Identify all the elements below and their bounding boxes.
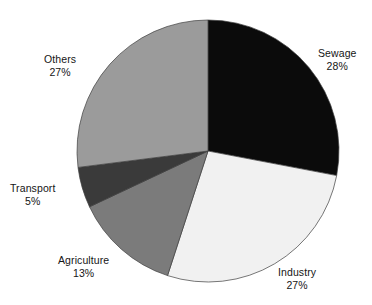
pie-slice-others <box>77 20 208 167</box>
pie-chart: Sewage 28% Industry 27% Agriculture 13% … <box>0 0 372 305</box>
pie-label-sewage: Sewage 28% <box>318 47 357 73</box>
pie-label-transport-name: Transport <box>10 182 55 195</box>
pie-label-industry-value: 27% <box>278 279 316 292</box>
pie-label-others-name: Others <box>44 53 76 66</box>
pie-label-agriculture-name: Agriculture <box>58 254 109 267</box>
pie-slice-sewage <box>208 20 339 176</box>
pie-label-transport-value: 5% <box>10 195 55 208</box>
pie-label-others-value: 27% <box>44 66 76 79</box>
pie-slice-group <box>77 20 339 282</box>
pie-label-others: Others 27% <box>44 53 76 79</box>
pie-label-agriculture: Agriculture 13% <box>58 254 109 280</box>
pie-label-industry: Industry 27% <box>278 266 316 292</box>
pie-canvas <box>0 0 372 305</box>
pie-label-transport: Transport 5% <box>10 182 55 208</box>
pie-label-agriculture-value: 13% <box>58 267 109 280</box>
pie-label-sewage-name: Sewage <box>318 47 357 60</box>
pie-label-industry-name: Industry <box>278 266 316 279</box>
pie-label-sewage-value: 28% <box>318 60 357 73</box>
